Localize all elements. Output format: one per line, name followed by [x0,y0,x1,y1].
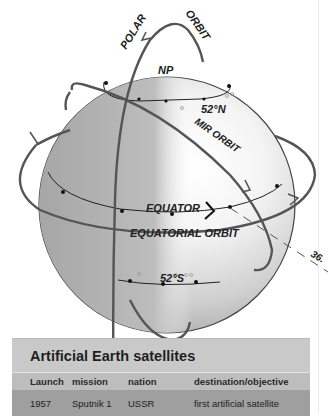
label-equatorial-orbit: EQUATORIAL ORBIT [130,227,240,239]
cell-objective: first artificial satellite [194,398,310,409]
label-angle: 36. [309,248,327,264]
cell-launch: 1957 [12,398,72,409]
orbit-diagram: POLAR ORBIT NP 52°N MIR ORBIT EQUATOR EQ… [0,0,328,340]
table-header-row: Launch mission nation destination/object… [12,372,310,390]
label-north-pole: NP [158,64,174,76]
col-nation: nation [128,376,194,387]
label-polar: POLAR [118,12,149,51]
col-launch: Launch [12,376,72,387]
label-52s: 52°S [160,272,185,284]
table-row: 1957 Sputnik 1 USSR first artificial sat… [12,390,310,416]
col-mission: mission [72,376,128,387]
satellites-table: Artificial Earth satellites Launch missi… [12,338,310,414]
col-objective: destination/objective [194,376,310,387]
label-orbit: ORBIT [183,7,213,43]
label-52n: 52°N [201,103,227,115]
table-title: Artificial Earth satellites [12,338,310,372]
cell-mission: Sputnik 1 [72,398,128,409]
cell-nation: USSR [128,398,194,409]
label-equator: EQUATOR [146,202,200,214]
